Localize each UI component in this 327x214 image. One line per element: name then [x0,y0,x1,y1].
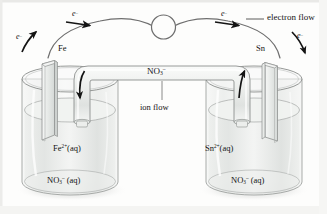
lamp-circle-icon [152,15,176,39]
electron-label-right-wire: e– [221,10,227,18]
electron-label-left-electrode: e– [16,33,22,41]
left-anion-label: NO3– (aq) [47,176,80,185]
right-anion-label: NO3– (aq) [231,176,264,185]
right-bridge-frit [237,121,248,127]
galvanic-cell-figure: e– e– e– e– electron flow Fe Sn NO3– ion… [0,0,327,214]
left-bridge-frit [77,121,88,127]
ion-flow-caption: ion flow [140,103,169,112]
electron-label-left-wire: e– [72,10,78,18]
right-electrode-label: Sn [256,44,265,53]
left-electrode-label: Fe [58,44,67,53]
right-cation-label: Sn2+(aq) [205,144,233,153]
electron-flow-caption: electron flow [267,13,315,22]
electron-label-right-electrode: e– [297,32,303,40]
salt-bridge-ion-label: NO3– [147,67,166,76]
iron-electrode [42,61,58,142]
tin-electrode [262,63,278,143]
left-cation-label: Fe2+(aq) [53,144,81,153]
left-liquid-surface [25,98,116,122]
right-liquid-surface [209,98,300,122]
